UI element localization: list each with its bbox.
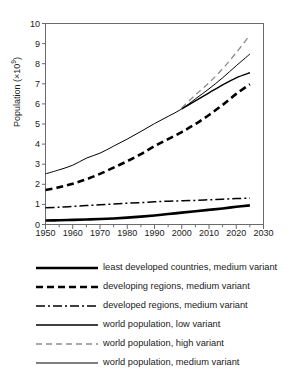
legend-item[interactable]: world population, low variant: [36, 315, 294, 334]
legend-item[interactable]: developed regions, medium variant: [36, 296, 294, 315]
legend-item[interactable]: world population, medium variant: [36, 353, 294, 372]
legend-line-sample: [36, 262, 98, 274]
legend-line-sample: [36, 357, 98, 369]
series-line: [46, 84, 250, 190]
legend-item-label: developing regions, medium variant: [103, 281, 250, 292]
population-projection-chart: Population (×109) 012345678910 195019601…: [0, 0, 299, 375]
legend-item-label: world population, low variant: [103, 319, 220, 330]
legend-item-label: world population, high variant: [103, 338, 224, 349]
legend-line-sample: [36, 300, 98, 312]
plot-area: Population (×109) 012345678910 195019601…: [0, 0, 299, 245]
legend-item-label: developed regions, medium variant: [103, 300, 248, 311]
series-line: [46, 205, 250, 220]
legend-item[interactable]: least developed countries, medium varian…: [36, 258, 294, 277]
legend-line-sample: [36, 319, 98, 331]
legend-item-label: world population, medium variant: [103, 357, 239, 368]
series-line: [46, 198, 250, 208]
legend-item[interactable]: world population, high variant: [36, 334, 294, 353]
legend-item[interactable]: developing regions, medium variant: [36, 277, 294, 296]
legend-line-sample: [36, 338, 98, 350]
series-line: [182, 35, 250, 108]
chart-canvas: [0, 0, 299, 245]
legend-item-label: least developed countries, medium varian…: [103, 262, 277, 273]
chart-legend: least developed countries, medium varian…: [0, 258, 299, 375]
legend-line-sample: [36, 281, 98, 293]
